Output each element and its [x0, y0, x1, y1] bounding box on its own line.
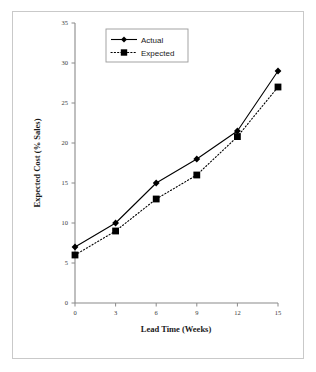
y-tick-label-25: 25 [62, 99, 69, 106]
y-tick-label-5: 5 [65, 259, 68, 266]
y-tick-label-20: 20 [62, 139, 69, 146]
x-axis-title: Lead Time (Weeks) [141, 324, 212, 334]
x-tick-label-6: 6 [155, 309, 159, 316]
y-tick-label-15: 15 [62, 179, 69, 186]
series-line-actual [75, 71, 278, 247]
legend-label-actual: Actual [141, 36, 163, 45]
legend-label-expected: Expected [141, 49, 174, 58]
y-tick-label-0: 0 [65, 299, 68, 306]
series-markers-actual [72, 68, 282, 251]
x-tick-label-9: 9 [195, 309, 198, 316]
x-tick-label-15: 15 [275, 309, 282, 316]
x-tick-label-3: 3 [114, 309, 117, 316]
y-tick-label-30: 30 [62, 59, 69, 66]
x-tick-label-12: 12 [234, 309, 241, 316]
chart-figure: 0 5 10 15 20 25 30 35 0 3 6 9 12 15 Lead… [0, 0, 316, 372]
y-axis-title: Expected Cost (% Sales) [32, 118, 42, 207]
legend-marker-square-icon [121, 49, 127, 55]
y-tick-label-35: 35 [62, 19, 69, 26]
y-tick-label-10: 10 [62, 219, 69, 226]
line-chart: 0 5 10 15 20 25 30 35 0 3 6 9 12 15 Lead… [0, 0, 316, 372]
x-tick-label-0: 0 [73, 309, 76, 316]
